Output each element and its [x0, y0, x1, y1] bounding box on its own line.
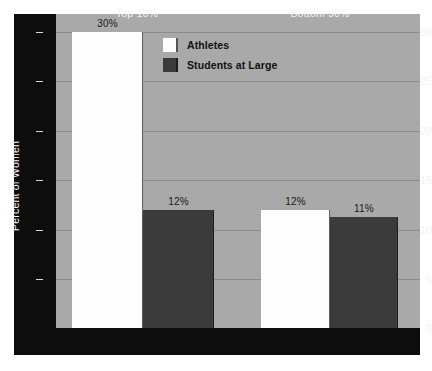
bar-value-bottom90-athletes: 12% [261, 196, 330, 207]
bar-bottom90-students [330, 217, 398, 328]
y-axis-title: Percent of Women [9, 126, 21, 246]
y-tick-mark-15 [36, 180, 43, 181]
bar-value-bottom90-students: 11% [330, 203, 398, 214]
legend-item-athletes: Athletes [163, 36, 277, 53]
legend: Athletes Students at Large [163, 36, 277, 76]
legend-swatch-icon-athletes [163, 38, 178, 52]
y-tick-mark-25 [36, 81, 43, 82]
legend-swatch-icon-students-at-large [163, 58, 178, 72]
y-tick-mark-30 [36, 32, 43, 33]
legend-label-athletes: Athletes [187, 39, 229, 51]
y-tick-mark-5 [36, 279, 43, 280]
y-tick-mark-10 [36, 230, 43, 231]
bar-bottom90-athletes [261, 210, 330, 328]
bar-top10-athletes [72, 32, 143, 328]
y-tick-mark-20 [36, 131, 43, 132]
bar-value-top10-students: 12% [143, 196, 214, 207]
legend-item-students-at-large: Students at Large [163, 56, 277, 73]
bar-top10-students [143, 210, 214, 328]
x-tick-label-top10: Top 10% [116, 0, 158, 27]
legend-label-students-at-large: Students at Large [187, 59, 277, 71]
bar-chart: Percent of Women 30 25 20 15 10 5 0 30% … [0, 0, 432, 371]
x-axis-band [14, 328, 420, 355]
x-tick-label-bottom90: Bottom 90% [290, 0, 349, 27]
